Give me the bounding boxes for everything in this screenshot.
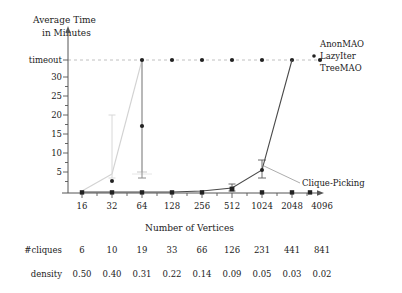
x-tick-2048: 2048: [277, 202, 307, 211]
density-16: 0.50: [67, 270, 97, 279]
density-2048: 0.03: [277, 270, 307, 279]
legend-item-anonmao: AnonMAO: [320, 40, 364, 49]
density-64: 0.31: [127, 270, 157, 279]
series-lazyiter: [138, 60, 146, 178]
chart-figure: Average Time in Minutes timeout 30 25 20…: [0, 0, 402, 293]
legend-item-lazyiter: LazyIter: [320, 52, 356, 61]
legend-item-treemao: TreeMAO: [320, 64, 362, 73]
y-tick-marks: [63, 60, 68, 182]
x-tick-4096: 4096: [307, 202, 337, 211]
x-tick-16: 16: [67, 202, 97, 211]
cliques-256: 66: [187, 246, 217, 255]
legend-item-clique-picking: Clique-Picking: [302, 179, 365, 188]
table-row-label-cliques: #cliques: [4, 246, 62, 255]
series-clique-picking: [82, 60, 292, 192]
density-128: 0.22: [157, 270, 187, 279]
cliques-2048: 441: [277, 246, 307, 255]
table-row-label-density: density: [4, 270, 62, 279]
clique-picking-leader: [264, 166, 300, 183]
series-anonmao: [82, 60, 142, 191]
cliques-4096: 841: [307, 246, 337, 255]
cliques-128: 33: [157, 246, 187, 255]
density-4096: 0.02: [307, 270, 337, 279]
x-tick-512: 512: [217, 202, 247, 211]
density-32: 0.40: [97, 270, 127, 279]
x-tick-128: 128: [157, 202, 187, 211]
x-tick-32: 32: [97, 202, 127, 211]
cliques-32: 10: [97, 246, 127, 255]
x-axis-title: Number of Vertices: [145, 224, 234, 233]
x-tick-marks: [82, 193, 307, 198]
x-tick-256: 256: [187, 202, 217, 211]
cliques-512: 126: [217, 246, 247, 255]
cliques-16: 6: [67, 246, 97, 255]
legend-bullet-icon: [312, 54, 316, 58]
density-1024: 0.05: [247, 270, 277, 279]
cliques-1024: 231: [247, 246, 277, 255]
cliques-64: 19: [127, 246, 157, 255]
point-32: [110, 179, 114, 183]
density-512: 0.09: [217, 270, 247, 279]
x-axis-arrow: [317, 190, 324, 195]
density-256: 0.14: [187, 270, 217, 279]
x-tick-64: 64: [127, 202, 157, 211]
y-axis-arrow: [65, 26, 70, 33]
timeout-markers: [140, 58, 322, 62]
x-tick-1024: 1024: [247, 202, 277, 211]
